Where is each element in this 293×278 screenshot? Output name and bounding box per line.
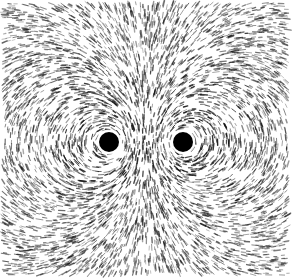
iron-filings-photo: Iron filings aligned along magnetic fiel…	[0, 0, 293, 278]
left-wire	[99, 132, 119, 152]
field-lines-pattern	[0, 0, 293, 278]
right-wire	[173, 132, 193, 152]
